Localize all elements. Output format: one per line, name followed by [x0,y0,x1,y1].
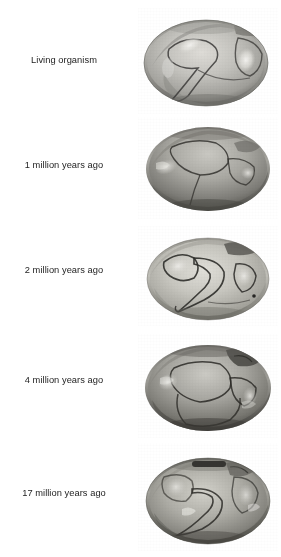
specimen-row: Living organism [0,8,281,114]
shell-photo-2ma [138,226,278,326]
shell-photo-1ma [138,117,278,219]
specimen-age-label: Living organism [0,54,128,66]
shell-specimen-living [138,8,278,114]
specimen-age-label: 17 million years ago [0,487,128,499]
shell-specimen-4ma [138,334,278,438]
shell-specimen-2ma [138,226,278,326]
specimen-row: 4 million years ago [0,334,281,438]
specimen-row: 17 million years ago [0,443,281,551]
specimen-row: 1 million years ago [0,117,281,219]
specimen-age-label: 4 million years ago [0,374,128,386]
shell-specimen-17ma [138,443,278,551]
specimen-age-label: 1 million years ago [0,159,128,171]
specimen-row: 2 million years ago [0,226,281,326]
shell-photo-17ma [138,443,278,551]
fossil-series-figure: Living organism [0,0,281,557]
shell-photo-4ma [138,334,278,438]
specimen-age-label: 2 million years ago [0,264,128,276]
shell-photo-living [138,8,278,114]
shell-specimen-1ma [138,117,278,219]
